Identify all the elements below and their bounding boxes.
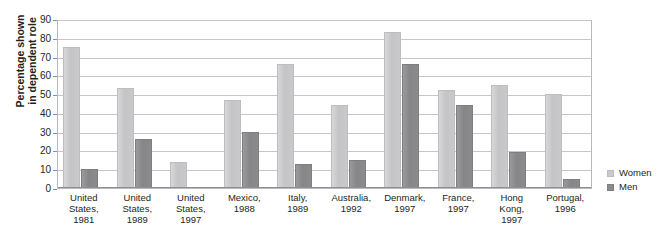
legend-label-men: Men — [619, 182, 637, 192]
x-axis-label-line: France, — [432, 192, 484, 203]
x-axis-line — [58, 187, 591, 188]
y-tick-mark-40 — [53, 114, 57, 115]
bar-group — [486, 20, 540, 188]
bar-group — [272, 20, 326, 188]
x-axis-label-line: Portugal, — [539, 192, 591, 203]
y-tick-mark-30 — [53, 133, 57, 134]
x-axis-label: France,1997 — [432, 192, 484, 214]
x-axis-label: Australia,1992 — [325, 192, 377, 214]
bar-men[interactable] — [509, 152, 526, 188]
bar-women[interactable] — [63, 47, 80, 188]
bar-women[interactable] — [545, 94, 562, 188]
y-tick-label-0: 0 — [23, 184, 51, 194]
y-tick-label-20: 20 — [23, 146, 51, 156]
bar-men[interactable] — [81, 169, 98, 188]
chart-figure: Percentage shown in dependent role 90807… — [0, 0, 664, 240]
bar-group — [379, 20, 433, 188]
bar-men[interactable] — [295, 164, 312, 188]
bar-women[interactable] — [224, 100, 241, 188]
bar-men[interactable] — [456, 105, 473, 188]
men-swatch-icon — [607, 184, 614, 191]
x-axis-label: UnitedStates,1981 — [58, 192, 110, 225]
x-axis-label: Denmark,1997 — [379, 192, 431, 214]
x-axis-label-line: 1981 — [58, 214, 110, 225]
x-axis-label-line: 1989 — [111, 214, 163, 225]
bar-women[interactable] — [170, 162, 187, 188]
x-axis-label-line: 1997 — [432, 203, 484, 214]
x-axis-label-line: Hong — [486, 192, 538, 203]
y-tick-mark-0 — [53, 189, 57, 190]
y-tick-label-10: 10 — [23, 165, 51, 175]
x-axis-label-line: 1997 — [379, 203, 431, 214]
bar-group — [433, 20, 487, 188]
women-swatch-icon — [607, 170, 614, 177]
x-axis-label-line: 1997 — [486, 214, 538, 225]
x-axis-label-line: States, — [165, 203, 217, 214]
chart-legend: Women Men — [607, 168, 652, 196]
x-axis-label-line: Australia, — [325, 192, 377, 203]
y-tick-mark-10 — [53, 170, 57, 171]
bar-men[interactable] — [135, 139, 152, 188]
bar-group — [219, 20, 273, 188]
bar-group — [540, 20, 594, 188]
legend-item-women[interactable]: Women — [607, 168, 652, 178]
bar-men[interactable] — [349, 160, 366, 188]
x-axis-label-line: United — [58, 192, 110, 203]
x-axis-label-line: States, — [111, 203, 163, 214]
x-axis-label-line: Mexico, — [218, 192, 270, 203]
y-tick-mark-50 — [53, 95, 57, 96]
bar-women[interactable] — [277, 64, 294, 188]
bar-group — [326, 20, 380, 188]
x-axis-label: UnitedStates,1989 — [111, 192, 163, 225]
x-axis-label-line: Italy, — [272, 192, 324, 203]
bar-group — [165, 20, 219, 188]
y-tick-mark-70 — [53, 58, 57, 59]
y-tick-mark-80 — [53, 39, 57, 40]
x-axis-category-labels: UnitedStates,1981UnitedStates,1989United… — [57, 192, 592, 238]
bar-group — [58, 20, 112, 188]
bar-women[interactable] — [438, 90, 455, 188]
bar-men[interactable] — [402, 64, 419, 188]
x-axis-label-line: United — [165, 192, 217, 203]
x-axis-label: Mexico,1988 — [218, 192, 270, 214]
y-tick-label-40: 40 — [23, 109, 51, 119]
x-axis-label-line: 1989 — [272, 203, 324, 214]
x-axis-label: UnitedStates,1997 — [165, 192, 217, 225]
plot-area — [57, 20, 592, 189]
x-axis-label-line: States, — [58, 203, 110, 214]
y-tick-label-90: 90 — [23, 15, 51, 25]
bar-women[interactable] — [117, 88, 134, 188]
x-axis-label: HongKong,1997 — [486, 192, 538, 225]
clipped-caption-strip — [0, 0, 664, 5]
legend-label-women: Women — [619, 168, 652, 178]
bar-women[interactable] — [384, 32, 401, 188]
x-axis-label-line: 1988 — [218, 203, 270, 214]
x-axis-label-line: 1992 — [325, 203, 377, 214]
x-axis-label-line: United — [111, 192, 163, 203]
bar-women[interactable] — [491, 85, 508, 188]
y-tick-label-60: 60 — [23, 71, 51, 81]
y-tick-label-50: 50 — [23, 90, 51, 100]
y-tick-label-30: 30 — [23, 128, 51, 138]
y-tick-mark-90 — [53, 20, 57, 21]
bar-women[interactable] — [331, 105, 348, 188]
bar-men[interactable] — [242, 132, 259, 188]
x-axis-label-line: Denmark, — [379, 192, 431, 203]
y-tick-label-70: 70 — [23, 53, 51, 63]
x-axis-label: Portugal,1996 — [539, 192, 591, 214]
x-axis-label: Italy,1989 — [272, 192, 324, 214]
x-axis-label-line: 1996 — [539, 203, 591, 214]
y-tick-label-80: 80 — [23, 34, 51, 44]
bar-series-container — [58, 20, 591, 188]
y-tick-mark-20 — [53, 151, 57, 152]
y-tick-mark-60 — [53, 76, 57, 77]
legend-item-men[interactable]: Men — [607, 182, 652, 192]
bar-group — [112, 20, 166, 188]
x-axis-label-line: 1997 — [165, 214, 217, 225]
x-axis-label-line: Kong, — [486, 203, 538, 214]
